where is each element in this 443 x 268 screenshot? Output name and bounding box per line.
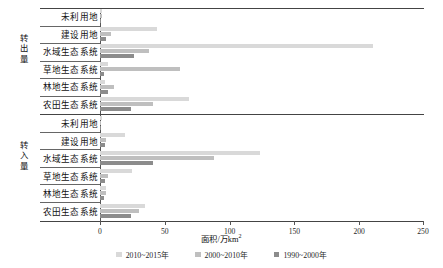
bar[interactable] xyxy=(100,107,131,111)
chart-container: 转出量 转入量 未利用地 建设用地 水域生态系统 草地生态系统 林地生态系统 农… xyxy=(0,0,443,268)
bar[interactable] xyxy=(100,44,373,48)
bar[interactable] xyxy=(100,151,260,155)
category-label-out-2: 水域生态系统 xyxy=(43,46,98,58)
category-separator xyxy=(40,61,100,62)
bar[interactable] xyxy=(100,27,157,31)
bar[interactable] xyxy=(100,9,102,13)
bar[interactable] xyxy=(100,209,139,213)
category-separator xyxy=(40,96,100,97)
bar[interactable] xyxy=(100,179,105,183)
bar-row xyxy=(100,8,424,26)
category-separator xyxy=(40,149,100,150)
chart-bottom-rule xyxy=(40,221,424,222)
bar[interactable] xyxy=(100,126,101,130)
bar[interactable] xyxy=(100,161,153,165)
category-separator xyxy=(40,26,100,27)
bar-row xyxy=(100,26,424,44)
bar[interactable] xyxy=(100,32,111,36)
legend-label-1990-2000: 1990~2000年 xyxy=(283,249,326,260)
group-label-transfer-out: 转出量 xyxy=(18,34,29,65)
bar[interactable] xyxy=(100,116,102,120)
bar-row xyxy=(100,78,424,96)
bar[interactable] xyxy=(100,54,134,58)
category-label-in-0: 未利用地 xyxy=(61,118,98,130)
bar-row xyxy=(100,167,424,185)
category-label-out-0: 未利用地 xyxy=(61,11,98,23)
x-tick-0 xyxy=(100,221,101,225)
bar[interactable] xyxy=(100,14,102,18)
group-label-transfer-in: 转入量 xyxy=(18,141,29,172)
category-label-in-4: 林地生态系统 xyxy=(43,188,98,200)
legend-swatch-icon xyxy=(274,252,280,258)
x-axis-title: 面积/万km2 xyxy=(0,232,443,244)
category-axis-labels: 未利用地 建设用地 水域生态系统 草地生态系统 林地生态系统 农田生态系统 未利… xyxy=(36,8,98,222)
bar[interactable] xyxy=(100,169,132,173)
x-tick-5 xyxy=(423,221,424,225)
bar-row xyxy=(100,185,424,203)
category-label-in-5: 农田生态系统 xyxy=(43,206,98,218)
x-tick-1 xyxy=(165,221,166,225)
x-tick-3 xyxy=(294,221,295,225)
legend-label-2000-2010: 2000~2010年 xyxy=(205,249,248,260)
bar[interactable] xyxy=(100,97,189,101)
bar-row xyxy=(100,43,424,61)
bar[interactable] xyxy=(100,174,108,178)
bar[interactable] xyxy=(100,19,101,23)
bar[interactable] xyxy=(100,138,106,142)
category-label-out-4: 林地生态系统 xyxy=(43,81,98,93)
bar[interactable] xyxy=(100,67,180,71)
category-label-in-2: 水域生态系统 xyxy=(43,153,98,165)
category-separator xyxy=(40,78,100,79)
bar-row xyxy=(100,203,424,221)
category-label-in-3: 草地生态系统 xyxy=(43,171,98,183)
bar-row xyxy=(100,132,424,150)
legend-item-2000-2010[interactable]: 2000~2010年 xyxy=(195,249,248,260)
bar[interactable] xyxy=(100,143,105,147)
bar[interactable] xyxy=(100,62,108,66)
bar[interactable] xyxy=(100,80,105,84)
bar-row xyxy=(100,150,424,168)
chart-legend: 2010~2015年 2000~2010年 1990~2000年 xyxy=(0,249,443,260)
x-axis-title-text: 面积/万km xyxy=(201,235,238,244)
bar-row xyxy=(100,61,424,79)
bar[interactable] xyxy=(100,121,101,125)
bar[interactable] xyxy=(100,72,104,76)
bar[interactable] xyxy=(100,204,145,208)
bar[interactable] xyxy=(100,191,106,195)
bar[interactable] xyxy=(100,156,214,160)
bar[interactable] xyxy=(100,85,114,89)
plot-area: 0 50 100 150 200 250 xyxy=(100,8,424,222)
x-axis-title-superscript: 2 xyxy=(239,233,242,239)
bar[interactable] xyxy=(100,102,153,106)
bar[interactable] xyxy=(100,90,108,94)
legend-swatch-icon xyxy=(116,252,122,258)
category-separator xyxy=(40,184,100,185)
category-label-out-1: 建设用地 xyxy=(61,29,98,41)
category-separator xyxy=(40,43,100,44)
category-label-out-5: 农田生态系统 xyxy=(43,99,98,111)
category-label-in-1: 建设用地 xyxy=(61,136,98,148)
category-separator xyxy=(40,167,100,168)
legend-item-2010-2015[interactable]: 2010~2015年 xyxy=(116,249,169,260)
bar-row xyxy=(100,115,424,133)
legend-label-2010-2015: 2010~2015年 xyxy=(126,249,169,260)
bar[interactable] xyxy=(100,37,106,41)
legend-item-1990-2000[interactable]: 1990~2000年 xyxy=(274,249,327,260)
bar[interactable] xyxy=(100,214,131,218)
bar[interactable] xyxy=(100,49,149,53)
x-tick-2 xyxy=(230,221,231,225)
category-label-out-3: 草地生态系统 xyxy=(43,64,98,76)
legend-swatch-icon xyxy=(195,252,201,258)
category-separator xyxy=(40,132,100,133)
bar[interactable] xyxy=(100,186,106,190)
x-tick-4 xyxy=(359,221,360,225)
category-separator xyxy=(40,202,100,203)
bar[interactable] xyxy=(100,133,125,137)
bar-row xyxy=(100,96,424,114)
bar[interactable] xyxy=(100,196,104,200)
